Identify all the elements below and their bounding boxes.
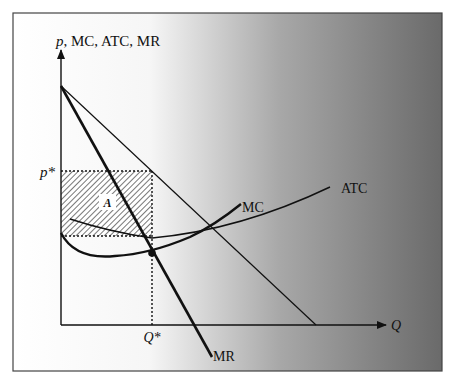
atc-label: ATC: [341, 181, 367, 196]
quantity-label: Q*: [143, 330, 160, 345]
y-axis-label: p, MC, ATC, MR: [55, 33, 160, 49]
price-label: p*: [39, 164, 56, 180]
area-label: A: [102, 196, 111, 210]
monopoly-diagram: A p, MC, ATC, MR Q p* Q* MC ATC MR: [0, 0, 453, 381]
mc-label: MC: [242, 200, 264, 215]
x-axis-label: Q: [391, 318, 401, 333]
mr-label: MR: [213, 349, 235, 364]
mr-mc-intersection-point: [148, 249, 156, 257]
